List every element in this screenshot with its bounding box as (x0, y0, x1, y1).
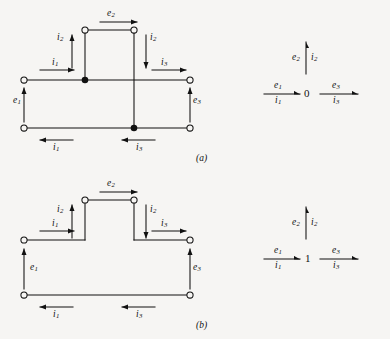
label-i3-top-a: i3 (161, 58, 167, 68)
circuit-series (24, 200, 190, 295)
bond-2-effort-a: e2 (292, 53, 300, 63)
label-i2-left-b: i2 (57, 205, 63, 215)
bond-3-effort-a: e3 (332, 81, 340, 91)
bond-1-effort-b: e1 (274, 246, 282, 256)
bond-3-flow-b: i3 (333, 261, 339, 271)
terminal-top-left (82, 27, 88, 33)
terminal-mid-left-b (21, 237, 27, 243)
terminal-top-left-b (82, 197, 88, 203)
bond-3-effort-b: e3 (332, 246, 340, 256)
label-e3-b: e3 (193, 263, 201, 273)
label-e3-a: e3 (193, 96, 201, 106)
circuit-parallel (24, 30, 190, 128)
bond-1-flow-a: i1 (275, 96, 281, 106)
label-e1-b: e1 (30, 263, 38, 273)
label-i1-bottom-b: i1 (53, 310, 59, 320)
label-e2-b: e2 (107, 179, 115, 189)
terminals-series (21, 197, 193, 298)
junction-symbol-zero: 0 (304, 87, 310, 99)
node-dot-upper (82, 77, 89, 84)
terminal-bot-left-b (21, 292, 27, 298)
label-i3-bottom-b: i3 (136, 310, 142, 320)
terminal-mid-left (21, 77, 27, 83)
terminal-top-right (131, 27, 137, 33)
bond-2-flow-b: i2 (311, 218, 317, 228)
caption-a: (a) (196, 153, 207, 163)
bond-2-effort-b: e2 (292, 218, 300, 228)
label-i1-top-a: i1 (52, 58, 58, 68)
junction-dots-parallel (82, 77, 138, 132)
label-e2-a: e2 (107, 9, 115, 19)
terminal-bot-right-b (187, 292, 193, 298)
label-i2-left-a: i2 (57, 33, 63, 43)
caption-b: (b) (196, 320, 207, 330)
label-i2-right-a: i2 (150, 33, 156, 43)
junction-symbol-one: 1 (305, 252, 311, 264)
terminals-parallel (21, 27, 193, 131)
bond-1-effort-a: e1 (274, 81, 282, 91)
label-i1-bottom-a: i1 (53, 143, 59, 153)
bond-1-flow-b: i1 (275, 261, 281, 271)
bond-2-flow-a: i2 (311, 53, 317, 63)
bond-3-flow-a: i3 (333, 96, 339, 106)
label-e1-a: e1 (13, 96, 21, 106)
node-dot-lower (131, 125, 138, 132)
terminal-bot-left (21, 125, 27, 131)
label-i3-top-b: i3 (161, 219, 167, 229)
current-arrows-parallel (24, 22, 190, 140)
label-i1-top-b: i1 (52, 219, 58, 229)
terminal-top-right-b (131, 197, 137, 203)
terminal-mid-right-b (187, 237, 193, 243)
current-arrows-series (24, 192, 190, 307)
terminal-mid-right (187, 77, 193, 83)
label-i3-bottom-a: i3 (136, 143, 142, 153)
label-i2-right-b: i2 (150, 205, 156, 215)
bond-graph-figure (0, 0, 390, 339)
terminal-bot-right (187, 125, 193, 131)
